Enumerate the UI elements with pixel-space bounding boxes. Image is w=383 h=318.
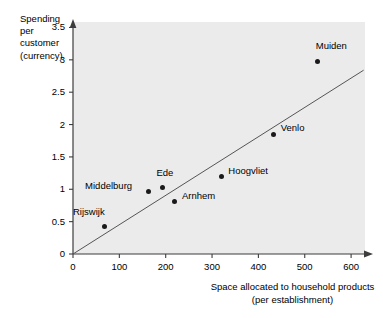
data-point-label: Arnhem <box>182 190 215 201</box>
x-tick-label: 0 <box>58 261 88 272</box>
x-tick-label: 200 <box>151 261 181 272</box>
data-point-label: Ede <box>156 167 173 178</box>
data-point-label: Rijswijk <box>73 206 105 217</box>
x-tick-label: 600 <box>336 261 366 272</box>
x-axis-ticks <box>73 254 351 258</box>
data-point-marker <box>271 132 276 137</box>
data-point-marker <box>146 189 151 194</box>
x-tick-label: 100 <box>104 261 134 272</box>
x-tick-label: 500 <box>290 261 320 272</box>
scatter-chart-figure: Spending per customer (currency) Space a… <box>0 0 383 318</box>
data-point-label: Hoogvliet <box>228 165 268 176</box>
data-point-label: Venlo <box>281 122 305 133</box>
x-axis-title: Space allocated to household products (p… <box>205 281 380 306</box>
trendline <box>73 70 364 254</box>
x-tick-label: 400 <box>243 261 273 272</box>
y-tick-label: 0 <box>37 248 65 259</box>
y-tick-label: 2 <box>37 119 65 130</box>
y-tick-label: 0.5 <box>37 216 65 227</box>
y-tick-label: 2.5 <box>37 86 65 97</box>
y-tick-label: 3 <box>37 54 65 65</box>
axis-lines <box>70 19 373 257</box>
data-point-label: Muiden <box>316 40 347 51</box>
data-point-label: Middelburg <box>85 180 132 191</box>
y-tick-label: 3.5 <box>37 21 65 32</box>
x-tick-label: 300 <box>197 261 227 272</box>
y-tick-label: 1 <box>37 183 65 194</box>
trendline-group <box>73 70 364 254</box>
y-tick-label: 1.5 <box>37 151 65 162</box>
x-axis-arrowhead <box>364 251 373 258</box>
